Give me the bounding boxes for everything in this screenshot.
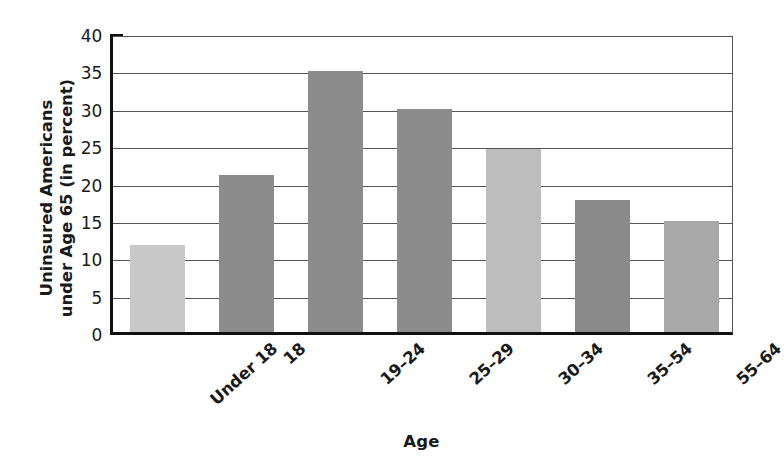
- x-axis-tick-labels: Under 181819–2425–2930–3435–5455–64: [110, 339, 733, 424]
- x-tick-label: 35–54: [643, 339, 695, 389]
- x-tick-label: 55–64: [732, 339, 784, 389]
- y-tick-label: 40: [66, 28, 102, 45]
- bar: [486, 149, 541, 332]
- y-tick-label: 30: [66, 102, 102, 119]
- bar: [397, 109, 452, 332]
- y-tick-label: 35: [66, 65, 102, 82]
- plot-area: [110, 36, 733, 335]
- y-tick-label: 15: [66, 214, 102, 231]
- bar: [130, 245, 185, 332]
- bar: [575, 200, 630, 332]
- y-tick-label: 10: [66, 252, 102, 269]
- x-tick-label: 30–34: [554, 339, 606, 389]
- bar: [308, 71, 363, 332]
- y-axis-title-line-1: Uninsured Americans: [37, 33, 57, 363]
- y-tick-label: 20: [66, 177, 102, 194]
- y-tick-label: 5: [66, 289, 102, 306]
- bar: [219, 175, 274, 332]
- bar: [664, 221, 719, 332]
- y-tick-label: 0: [66, 327, 102, 344]
- x-tick-label: Under 18: [206, 339, 281, 409]
- x-tick-label: 25–29: [465, 339, 517, 389]
- bar-series: [113, 36, 732, 332]
- y-axis-tick-labels: 0510152025303540: [66, 36, 102, 335]
- x-tick-label: 19–24: [376, 339, 428, 389]
- x-tick-label: 18: [279, 339, 308, 368]
- y-tick-label: 25: [66, 140, 102, 157]
- x-axis-title: Age: [110, 432, 733, 451]
